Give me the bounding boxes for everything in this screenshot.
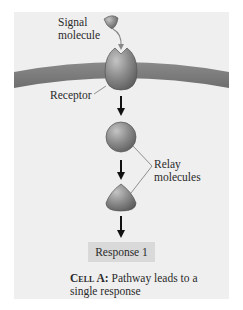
relay-label-line2: molecules [154, 171, 201, 184]
signal-arrow [113, 29, 121, 46]
relay-label-line1: Relay [154, 158, 201, 171]
signal-label-line2: molecule [58, 29, 100, 42]
arrow-down-icon [117, 108, 125, 116]
relay-molecule-2 [106, 184, 136, 211]
receptor-label: Receptor [50, 89, 92, 102]
relay-molecules-label: Relay molecules [154, 158, 201, 184]
relay-pointer [131, 146, 152, 193]
relay-molecule-1 [106, 122, 136, 152]
receptor-pointer [94, 86, 106, 94]
caption-bold: Cell A: [70, 272, 109, 284]
response-box: Response 1 [88, 242, 155, 262]
receptor-icon [105, 48, 137, 90]
arrow-down-icon [117, 172, 125, 180]
signal-molecule-icon [104, 16, 118, 29]
pathway-illustration [0, 0, 243, 310]
signal-label-line1: Signal [58, 16, 100, 29]
arrow-down-icon [117, 230, 125, 238]
signal-molecule-label: Signal molecule [58, 16, 100, 42]
caption: Cell A: Pathway leads to a single respon… [70, 272, 210, 298]
